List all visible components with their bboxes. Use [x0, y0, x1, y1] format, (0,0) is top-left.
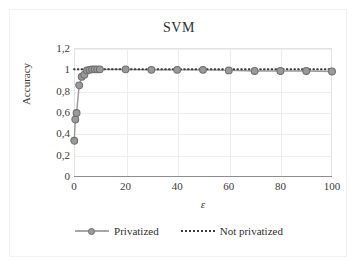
x-tick-label: 20 — [120, 180, 131, 192]
chart-title: SVM — [0, 20, 358, 36]
x-tick-label: 80 — [275, 180, 286, 192]
x-axis-ticks: 020406080100 — [74, 180, 332, 196]
y-axis-ticks: 00,20,40,60,811,2 — [30, 48, 70, 176]
series-layer — [74, 48, 332, 176]
legend-dotted-line-icon — [181, 226, 215, 236]
y-tick-label: 0,4 — [34, 127, 70, 139]
data-point-marker — [76, 82, 83, 89]
x-axis-line — [74, 176, 332, 177]
y-axis-title: Accuracy — [20, 34, 32, 134]
x-axis-title: ε — [74, 198, 332, 210]
legend-solid-line-icon — [75, 226, 109, 236]
y-tick-label: 0 — [34, 170, 70, 182]
data-point-marker — [96, 66, 103, 73]
y-tick-label: 1,2 — [34, 42, 70, 54]
data-point-marker — [174, 66, 181, 73]
legend-item-privatized[interactable]: Privatized — [75, 225, 159, 237]
y-tick-label: 1 — [34, 63, 70, 75]
data-point-marker — [225, 67, 232, 74]
data-point-marker — [303, 68, 310, 75]
data-point-marker — [277, 68, 284, 75]
chart-legend: Privatized Not privatized — [0, 225, 358, 237]
x-tick-label: 100 — [324, 180, 341, 192]
x-tick-label: 60 — [223, 180, 234, 192]
data-point-marker — [200, 66, 207, 73]
legend-item-not-privatized[interactable]: Not privatized — [181, 225, 283, 237]
data-point-marker — [73, 110, 80, 117]
data-point-marker — [251, 68, 258, 75]
x-tick-label: 0 — [71, 180, 77, 192]
data-point-marker — [122, 66, 129, 73]
data-point-marker — [148, 66, 155, 73]
y-tick-label: 0,6 — [34, 106, 70, 118]
y-tick-label: 0,2 — [34, 149, 70, 161]
y-tick-label: 0,8 — [34, 85, 70, 97]
chart-figure: SVM 00,20,40,60,811,2 020406080100 Accur… — [0, 0, 358, 268]
x-tick-label: 40 — [172, 180, 183, 192]
data-point-marker — [71, 137, 78, 144]
legend-label-not-privatized: Not privatized — [220, 225, 283, 237]
legend-label-privatized: Privatized — [114, 225, 159, 237]
data-point-marker — [72, 116, 79, 123]
series-line-privatized — [74, 69, 332, 140]
data-point-marker — [329, 68, 336, 75]
